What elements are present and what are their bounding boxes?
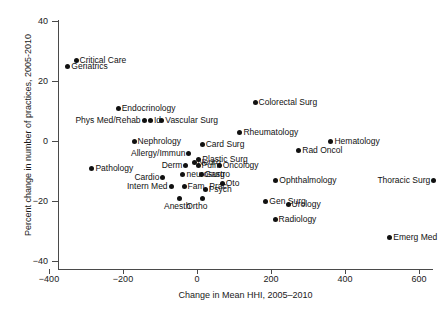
- data-point: [196, 163, 201, 168]
- data-point-label: Card Surg: [206, 140, 245, 149]
- data-point: [217, 163, 222, 168]
- data-point: [169, 184, 174, 189]
- data-point-label: Nephrology: [138, 137, 181, 146]
- data-point: [431, 178, 436, 183]
- x-tick-label: 600: [399, 275, 439, 284]
- data-point: [328, 139, 333, 144]
- data-point: [200, 196, 205, 201]
- y-tick-label: −40: [22, 257, 48, 266]
- x-tick-label: 400: [325, 275, 365, 284]
- data-point: [65, 64, 70, 69]
- data-point: [160, 175, 165, 180]
- data-point: [186, 151, 191, 156]
- x-tick-label: −200: [103, 275, 143, 284]
- data-point-label: Derm: [162, 161, 183, 170]
- data-point-label: Endocrinology: [122, 104, 176, 113]
- data-point: [177, 196, 182, 201]
- data-point: [200, 142, 205, 147]
- data-point: [89, 166, 94, 171]
- x-tick-label: −400: [29, 275, 69, 284]
- data-point: [273, 217, 278, 222]
- data-point-label: Intern Med: [127, 182, 168, 191]
- data-point: [263, 199, 268, 204]
- y-axis-line: [58, 20, 59, 270]
- y-tick: [52, 201, 58, 202]
- data-point: [387, 235, 392, 240]
- data-point-label: Ortho: [186, 202, 207, 211]
- data-point-label: Colorectal Surg: [259, 98, 318, 107]
- data-point: [286, 202, 291, 207]
- data-point: [296, 148, 301, 153]
- data-point-label: Thoracic Surg: [377, 176, 430, 185]
- data-point-label: Pathology: [95, 164, 133, 173]
- data-point: [220, 181, 225, 186]
- data-point-label: Phys Med/Rehab: [75, 116, 140, 125]
- x-tick-label: 200: [251, 275, 291, 284]
- scatter-chart: 40200−20−40−400−2000200400600 Critical C…: [0, 0, 444, 310]
- y-tick: [52, 81, 58, 82]
- data-point-label: Ophthalmology: [279, 176, 336, 185]
- data-point: [237, 130, 242, 135]
- data-point-label: Rheumatology: [243, 128, 298, 137]
- data-point-label: Oto: [226, 179, 240, 188]
- y-tick: [52, 21, 58, 22]
- data-point: [148, 118, 153, 123]
- data-point: [183, 163, 188, 168]
- y-tick: [52, 261, 58, 262]
- data-point-label: Vascular Surg: [165, 116, 218, 125]
- data-point-label: Emerg Med: [393, 233, 437, 242]
- data-point: [132, 139, 137, 144]
- x-tick-label: 0: [177, 275, 217, 284]
- data-point-label: Geriatrics: [71, 62, 107, 71]
- data-point: [203, 187, 208, 192]
- y-tick: [52, 141, 58, 142]
- data-point: [180, 172, 185, 177]
- data-point: [273, 178, 278, 183]
- x-axis-title: Change in Mean HHI, 2005–2010: [58, 290, 433, 300]
- y-axis-title: Percent change in number of practices, 2…: [23, 15, 33, 255]
- data-point: [199, 172, 204, 177]
- data-point-label: Rad Oncol: [302, 146, 342, 155]
- data-point: [182, 184, 187, 189]
- data-point: [142, 118, 147, 123]
- data-point-label: Urology: [292, 200, 321, 209]
- data-point: [159, 118, 164, 123]
- data-point: [116, 106, 121, 111]
- data-point: [253, 100, 258, 105]
- data-point-label: Radiology: [279, 215, 317, 224]
- data-point-label: Allergy/Immun: [131, 149, 185, 158]
- x-axis-line: [58, 269, 433, 270]
